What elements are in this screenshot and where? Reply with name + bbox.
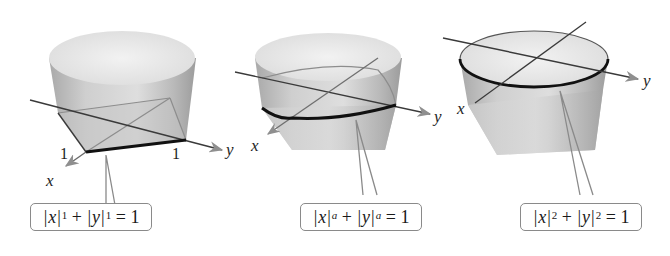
surface-top — [49, 31, 195, 85]
rhs: 1 — [400, 207, 409, 228]
equation-callout-a: |x|a + |y|a = 1 — [300, 203, 422, 231]
exponent: 1 — [106, 209, 112, 221]
exponent: 2 — [596, 209, 602, 221]
y-var: y — [92, 207, 100, 228]
equation-callout-2: |x|2 + |y|2 = 1 — [520, 203, 642, 231]
rhs: 1 — [130, 207, 139, 228]
rhs: 1 — [620, 207, 629, 228]
equation-callout-1: |x|1 + |y|1 = 1 — [30, 203, 152, 231]
axis-label-x: x — [457, 100, 465, 117]
y-var: y — [362, 207, 370, 228]
axis-label-x: x — [251, 137, 259, 154]
tick-x-one: 1 — [60, 146, 68, 162]
exponent: a — [376, 209, 382, 221]
exponent: a — [332, 209, 338, 221]
figure-2-superellipse — [235, 33, 430, 195]
figure-3-circle — [443, 22, 638, 195]
figure-1-diamond — [30, 31, 222, 205]
leader-line — [106, 155, 115, 205]
y-var: y — [582, 207, 590, 228]
axis-label-y: y — [226, 141, 234, 158]
axis-label-y: y — [434, 108, 442, 125]
unit-ball-diagram: 1 1 y x y x y x |x|1 + |y|1 = 1 |x|a + |… — [0, 0, 670, 256]
x-var: x — [318, 207, 326, 228]
axis-label-x: x — [46, 172, 54, 189]
x-var: x — [48, 207, 56, 228]
exponent: 2 — [552, 209, 558, 221]
x-axis — [66, 152, 86, 166]
x-var: x — [538, 207, 546, 228]
axis-label-y: y — [643, 72, 651, 89]
exponent: 1 — [62, 209, 68, 221]
tick-y-one: 1 — [172, 146, 180, 162]
